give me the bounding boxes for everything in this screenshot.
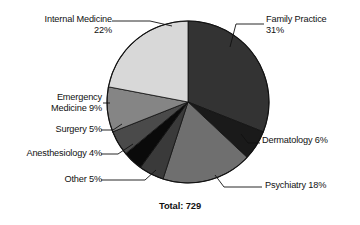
slice-label-psychiatry: Psychiatry 18% <box>265 180 359 191</box>
slice-label-anesthesiology: Anesthesiology 4% <box>2 148 102 159</box>
pie-chart-figure: Family Practice 31% Dermatology 6% Psych… <box>0 0 360 225</box>
slice-label-family-practice: Family Practice 31% <box>266 14 358 37</box>
pie-slices-group <box>107 21 269 183</box>
chart-total-label: Total: 729 <box>0 200 360 211</box>
slice-label-other: Other 5% <box>22 174 102 185</box>
slice-label-surgery: Surgery 5% <box>18 124 102 135</box>
leader-line-psychiatry <box>215 175 262 187</box>
slice-label-dermatology: Dermatology 6% <box>262 135 360 146</box>
slice-label-internal-medicine: Internal Medicine 22% <box>8 14 112 37</box>
slice-label-emergency-medicine: Emergency Medicine 9% <box>18 92 102 115</box>
